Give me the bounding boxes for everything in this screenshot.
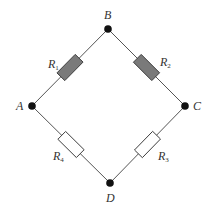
resistor-label-r2: R2 bbox=[160, 56, 171, 70]
node-label-a: A bbox=[16, 100, 23, 112]
bridge-circuit-diagram: A B C D R1 R2 R4 R3 bbox=[0, 0, 211, 211]
node-c-dot-icon bbox=[181, 102, 189, 110]
resistor-r1-icon bbox=[57, 54, 83, 80]
circuit-canvas bbox=[0, 0, 211, 211]
resistor-label-r4: R4 bbox=[53, 150, 64, 164]
resistor-r2-icon bbox=[133, 54, 159, 80]
node-a-dot-icon bbox=[28, 102, 36, 110]
resistor-r3-icon bbox=[134, 131, 160, 157]
node-b-dot-icon bbox=[104, 25, 112, 33]
node-label-d: D bbox=[106, 192, 115, 204]
resistor-label-r1: R1 bbox=[48, 58, 59, 72]
node-d-dot-icon bbox=[106, 179, 114, 187]
node-label-b: B bbox=[104, 9, 111, 21]
resistor-label-r3: R3 bbox=[158, 150, 169, 164]
node-label-c: C bbox=[193, 100, 201, 112]
